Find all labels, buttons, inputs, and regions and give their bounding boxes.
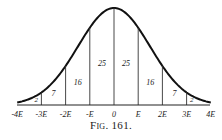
area-label: 2 (190, 96, 194, 104)
x-tick-label: -2E (60, 110, 72, 119)
area-label: 25 (122, 59, 130, 68)
area-label: 16 (74, 78, 82, 87)
area-label: 25 (98, 59, 106, 68)
x-tick-label: E (135, 110, 141, 119)
x-tick-label: 2E (158, 110, 167, 119)
area-label: 16 (146, 78, 154, 87)
x-tick-label: 3E (181, 110, 191, 119)
figure-caption: Fig. 161. (0, 119, 222, 131)
area-label: 2 (35, 96, 39, 104)
x-tick-label: -E (86, 110, 94, 119)
x-tick-label: 4E (206, 110, 215, 119)
x-tick-label: -3E (36, 110, 48, 119)
area-label: 7 (52, 89, 57, 98)
x-tick-label: 0 (112, 110, 116, 119)
x-tick-label: -4E (11, 110, 23, 119)
ordinate-lines (41, 8, 186, 105)
x-axis-tick-labels: -4E-3E-2E-E0E2E3E4E (11, 110, 215, 119)
area-label: 7 (173, 89, 178, 98)
